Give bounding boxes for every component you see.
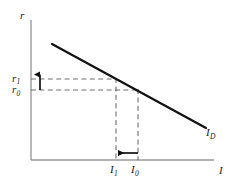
investment-demand-curve — [52, 44, 206, 128]
tick-label-i1-sub: 1 — [114, 169, 118, 178]
tick-label-r0-sub: 0 — [17, 89, 21, 98]
y-axis-label: r — [20, 10, 24, 21]
investment-demand-figure: r I r1 r0 I1 I0 ID — [0, 0, 237, 186]
curve-label-id: ID — [206, 127, 215, 138]
tick-label-r1-base: r — [12, 72, 16, 84]
tick-label-i1: I1 — [110, 164, 117, 175]
tick-label-r1: r1 — [12, 73, 20, 84]
curve-label-id-sub: D — [210, 132, 215, 141]
tick-label-r0: r0 — [12, 84, 20, 95]
tick-label-i0: I0 — [131, 164, 138, 175]
x-axis-label: I — [219, 165, 223, 176]
tick-label-i0-sub: 0 — [135, 169, 139, 178]
figure-canvas — [0, 0, 237, 186]
tick-label-r0-base: r — [12, 83, 16, 95]
